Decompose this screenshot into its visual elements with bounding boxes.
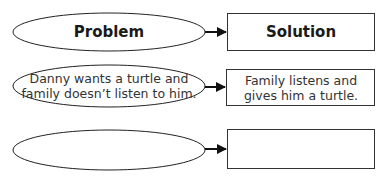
problem-header: Problem [13, 13, 205, 51]
solution-header: Solution [227, 13, 375, 51]
problem-text-empty [20, 130, 198, 170]
solution-text-empty [232, 129, 370, 169]
problem-text: Danny wants a turtle and family doesn’t … [20, 66, 198, 106]
solution-text: Family listens and gives him a turtle. [232, 69, 370, 106]
